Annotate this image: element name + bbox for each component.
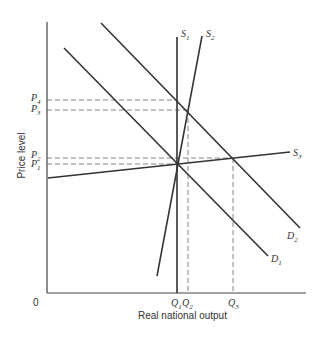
label-s1: S1	[181, 28, 190, 42]
x-axis-title: Real national output	[138, 310, 227, 321]
label-d1: D1	[271, 253, 282, 267]
y-axis-title: Price level	[16, 121, 27, 191]
guide-lines	[47, 100, 233, 293]
label-q3: Q3	[228, 297, 239, 311]
label-q1: Q1	[171, 297, 182, 311]
label-p3: P3	[31, 103, 41, 117]
label-d2: D2	[287, 230, 298, 244]
label-s3: S3	[293, 147, 302, 161]
diagram-canvas	[0, 0, 324, 340]
label-s2: S2	[206, 28, 215, 42]
curve-s2	[157, 36, 202, 276]
label-p1: P1	[31, 158, 41, 172]
curve-d2	[101, 23, 300, 228]
label-q2: Q2	[182, 297, 193, 311]
origin-label: 0	[33, 297, 39, 308]
